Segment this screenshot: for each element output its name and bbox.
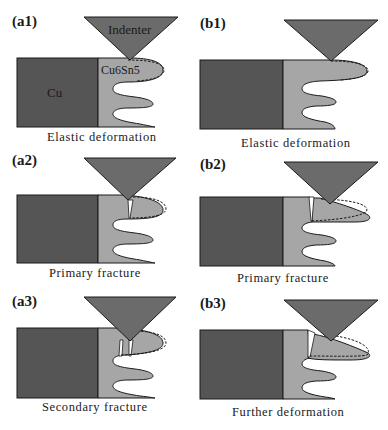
indenter	[84, 158, 176, 200]
cu-substrate	[200, 197, 283, 266]
cu6sn5-label: Cu6Sn5	[101, 63, 140, 77]
panel-caption: Primary fracture	[237, 271, 329, 285]
cu-substrate	[200, 330, 283, 399]
indenter-label: Indenter	[108, 22, 152, 37]
panel-a2: (a2) Primary fracture	[12, 152, 176, 280]
cu-substrate	[17, 328, 98, 398]
panel-b2: (b2) Primary fracture	[200, 156, 378, 285]
panel-label: (a2)	[12, 152, 37, 169]
secondary-crack	[119, 340, 123, 356]
panel-a3: (a3) Secondary fracture	[12, 293, 176, 414]
cu-substrate	[17, 195, 98, 263]
panel-label: (a1)	[12, 13, 37, 30]
panel-label: (b2)	[200, 156, 226, 173]
cu6sn5-layer	[283, 60, 367, 129]
panel-b3: (b3) Further deformation	[200, 295, 378, 419]
panel-a1: (a1) Indenter Cu Cu6Sn5 Elastic deformat…	[12, 13, 178, 144]
panel-label: (a3)	[12, 293, 37, 310]
panel-caption: Further deformation	[232, 405, 345, 419]
panel-label: (b3)	[200, 295, 226, 312]
panel-b1: (b1) Elastic deformation	[200, 15, 378, 150]
panel-caption: Secondary fracture	[42, 400, 148, 414]
indentation-diagram: (a1) Indenter Cu Cu6Sn5 Elastic deformat…	[0, 0, 388, 430]
panel-caption: Primary fracture	[49, 266, 141, 280]
panel-label: (b1)	[200, 15, 226, 32]
cu-substrate	[200, 60, 283, 129]
panel-caption: Elastic deformation	[241, 136, 351, 150]
indenter	[284, 20, 378, 61]
cu-label: Cu	[47, 85, 63, 100]
panel-caption: Elastic deformation	[47, 130, 157, 144]
